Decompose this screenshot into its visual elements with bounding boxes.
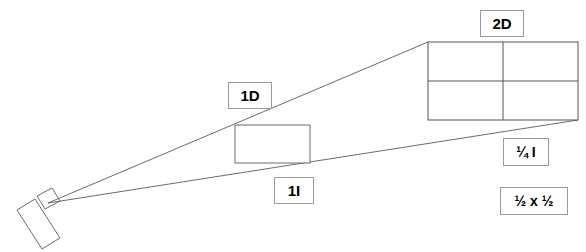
far-plane-group [428,42,578,120]
label-half-by-half: ½ x ½ [500,187,568,215]
diagram-canvas: 2D 1D 1I ¼ I ½ x ½ [0,0,586,252]
label-1i: 1I [274,177,314,204]
label-quarter-intensity: ¼ I [503,138,549,166]
near-plane-group [235,125,310,163]
label-2d: 2D [480,10,524,37]
upper-projection-ray [48,42,428,203]
projection-diagram [0,0,586,252]
camera-body [17,199,60,249]
1d-rectangle [235,125,310,163]
camera-group [17,188,60,249]
label-1d: 1D [228,82,272,109]
camera-lens-icon [37,188,60,209]
